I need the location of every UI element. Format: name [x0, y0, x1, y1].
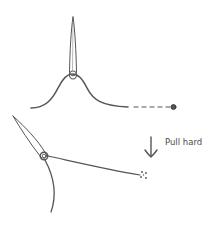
thread-taut — [48, 156, 140, 175]
thread-end-scatter-icon — [140, 171, 147, 179]
thread-curve — [31, 74, 128, 108]
needle-icon — [13, 116, 46, 158]
thread-hanging — [45, 160, 54, 212]
thread-end-dot-icon — [171, 105, 176, 110]
arrow-down-icon — [145, 137, 157, 157]
step-1-illustration — [31, 17, 176, 110]
step-2-illustration — [13, 116, 147, 212]
pull-hard-label: Pull hard — [165, 137, 202, 147]
needle-threading-diagram — [0, 0, 215, 225]
